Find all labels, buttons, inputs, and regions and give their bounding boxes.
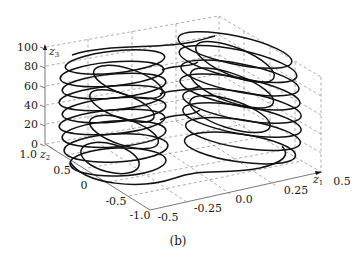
svg-text:z3: z3 bbox=[48, 45, 59, 59]
z2-tick: 0.5 bbox=[53, 164, 71, 177]
z3-tick: 80 bbox=[24, 60, 38, 73]
z2-axis-line bbox=[45, 144, 150, 210]
z3-tick: 100 bbox=[17, 41, 38, 54]
z1-tick: -0.25 bbox=[194, 202, 222, 215]
z3-axis-label: z3 bbox=[48, 45, 59, 59]
z3-tick: 40 bbox=[24, 99, 38, 112]
svg-text:z1: z1 bbox=[312, 173, 323, 187]
attractor-figure: 100 80 60 40 20 0 z3 1.0 0.5 0 -0.5 -1.0… bbox=[0, 0, 364, 261]
z1-tick: 0.0 bbox=[235, 193, 253, 206]
z1-axis-label: z1 bbox=[312, 173, 323, 187]
z2-tick: -0.5 bbox=[105, 195, 126, 208]
plot-canvas: 100 80 60 40 20 0 z3 1.0 0.5 0 -0.5 -1.0… bbox=[0, 0, 364, 261]
z2-tick: 1.0 bbox=[20, 148, 38, 161]
z2-axis-label: z2 bbox=[39, 148, 50, 162]
figure-caption: (b) bbox=[169, 234, 186, 248]
z3-tick-labels: 100 80 60 40 20 0 bbox=[17, 41, 38, 151]
z3-tick: 20 bbox=[24, 118, 38, 131]
svg-text:z2: z2 bbox=[39, 148, 50, 162]
z1-tick: 0.25 bbox=[284, 184, 309, 197]
z2-tick: -1.0 bbox=[129, 209, 150, 222]
z3-tick: 60 bbox=[24, 80, 38, 93]
z1-tick: -0.5 bbox=[157, 211, 178, 224]
z2-arrow-icon bbox=[48, 145, 55, 151]
attractor-trajectory bbox=[58, 24, 303, 184]
z2-tick: 0 bbox=[81, 179, 88, 192]
z1-tick: 0.5 bbox=[333, 175, 351, 188]
